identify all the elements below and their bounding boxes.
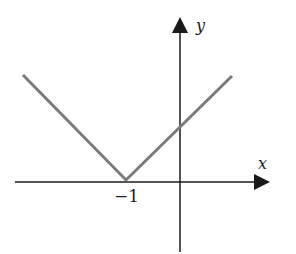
x-axis-arrow-icon	[254, 174, 270, 190]
y-axis-label: y	[195, 16, 206, 35]
y-axis-arrow-icon	[172, 17, 188, 33]
tick-label-minus-one: −1	[114, 186, 139, 206]
x-axis-label: x	[258, 154, 267, 173]
absolute-value-curve	[23, 75, 232, 180]
graph-canvas: y x −1	[0, 0, 296, 254]
